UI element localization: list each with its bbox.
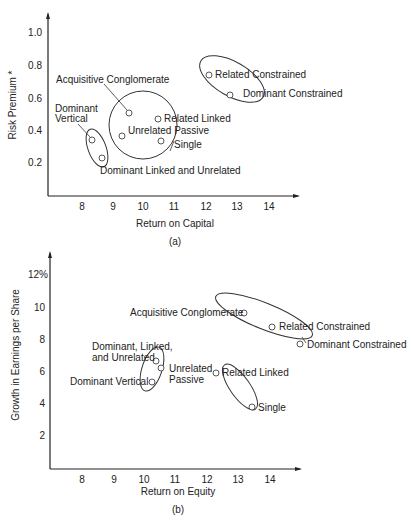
data-point (249, 404, 255, 410)
data-point (155, 116, 161, 122)
point-label: Dominant Linked and Unrelated (100, 165, 241, 176)
y-axis-title-b: Growth in Earnings per Share (10, 289, 21, 421)
data-point (89, 137, 95, 143)
point-label: Related Constrained (215, 69, 306, 80)
data-point (297, 341, 303, 347)
y-axis-arrow-icon (46, 12, 50, 19)
point-label: Single (174, 139, 202, 150)
point-label: Dominant Constrained (307, 339, 407, 350)
x-tick-label: 13 (232, 474, 244, 485)
data-point (158, 365, 164, 371)
point-label: Unrelated (169, 363, 212, 374)
point-label: Related Constrained (279, 321, 370, 332)
chart-a: 1.0 0.8 0.6 0.4 0.2 8 9 10 11 12 13 14 R… (7, 12, 343, 247)
point-label: Related Linked (164, 113, 231, 124)
data-point (149, 379, 155, 385)
data-point (99, 155, 105, 161)
x-tick-label: 12 (201, 474, 213, 485)
x-tick-label: 11 (169, 201, 180, 212)
x-tick-label: 10 (138, 474, 150, 485)
y-axis-arrow-icon (48, 251, 52, 258)
x-axis-title-b: Return on Equity (141, 486, 216, 497)
data-point (126, 110, 132, 116)
point-label: Dominant, Linked, (92, 341, 173, 352)
x-tick-label: 9 (110, 201, 116, 212)
data-point (213, 370, 219, 376)
point-label: Single (258, 402, 286, 413)
x-tick-label: 8 (79, 201, 85, 212)
y-axis-title-a: Risk Premium * (7, 70, 18, 139)
y-tick-label: 6 (39, 366, 45, 377)
x-axis-arrow-icon (293, 194, 300, 198)
point-label: Acquisitive Conglomerate (56, 74, 170, 85)
data-point (119, 133, 125, 139)
point-label: Unrelated Passive (128, 125, 210, 136)
y-tick-label: 8 (39, 334, 45, 345)
y-tick-label: 0.6 (28, 93, 42, 104)
x-tick-label: 11 (170, 474, 181, 485)
y-tick-label: 0.8 (28, 60, 42, 71)
x-tick-label: 10 (137, 201, 149, 212)
chart-b: 12% 10 8 6 4 2 8 9 10 11 12 13 14 Return… (10, 251, 407, 515)
point-label: Related Linked (222, 367, 289, 378)
point-label: and Unrelated (92, 352, 155, 363)
x-axis-arrow-icon (295, 467, 302, 471)
point-label: Vertical (55, 113, 88, 124)
y-tick-label: 12% (28, 269, 48, 280)
y-tick-label: 0.4 (28, 125, 42, 136)
data-point (158, 138, 164, 144)
x-tick-label: 8 (79, 474, 85, 485)
figure-canvas: 1.0 0.8 0.6 0.4 0.2 8 9 10 11 12 13 14 R… (0, 0, 411, 525)
y-tick-label: 4 (39, 398, 45, 409)
data-point (206, 72, 212, 78)
x-tick-label: 13 (231, 201, 243, 212)
data-point (269, 324, 275, 330)
x-tick-label: 14 (264, 474, 276, 485)
x-tick-label: 14 (263, 201, 275, 212)
panel-caption-a: (a) (169, 236, 181, 247)
data-point (227, 92, 233, 98)
x-axis-title-a: Return on Capital (136, 218, 214, 229)
point-label: Passive (169, 374, 204, 385)
point-label: Dominant Constrained (243, 88, 343, 99)
y-tick-label: 1.0 (28, 27, 42, 38)
y-tick-label: 0.2 (28, 157, 42, 168)
point-label: Acquisitive Conglomerate (130, 307, 244, 318)
panel-caption-b: (b) (172, 504, 184, 515)
y-tick-label: 2 (39, 430, 45, 441)
y-tick-label: 10 (34, 302, 46, 313)
x-tick-label: 9 (111, 474, 117, 485)
x-tick-label: 12 (200, 201, 212, 212)
point-label: Dominant Vertical (70, 376, 148, 387)
